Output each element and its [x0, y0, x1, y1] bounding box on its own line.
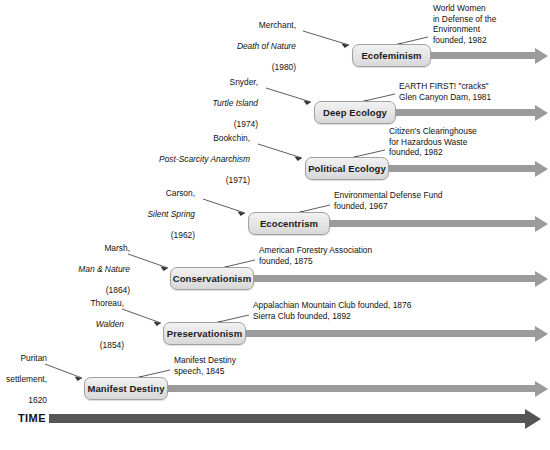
row-arrow-ecofeminism — [428, 52, 535, 59]
row-arrow-conservationism — [251, 275, 535, 282]
movement-box-ecofeminism[interactable]: Ecofeminism — [352, 44, 431, 67]
left-note-author: Carson, — [148, 188, 196, 199]
movement-box-political-ecology[interactable]: Political Ecology — [305, 157, 389, 180]
movement-box-preservationism[interactable]: Preservationism — [163, 322, 246, 345]
leader-line-left-2 — [266, 88, 311, 102]
row-arrow-ecocentrism — [327, 220, 535, 227]
left-note-author: Puritan — [6, 353, 47, 364]
leader-line-left-5 — [128, 254, 168, 268]
time-axis: TIME — [0, 405, 550, 435]
right-note-preservationism: Appalachian Mountain Club founded, 1876 … — [253, 300, 411, 321]
left-note-author: Snyder, — [213, 77, 258, 88]
movement-box-conservationism[interactable]: Conservationism — [170, 267, 254, 290]
leader-line-left-3 — [258, 144, 302, 158]
leader-line-left-7 — [45, 364, 82, 378]
left-note-preservationism: Thoreau, Walden (1854) — [90, 287, 124, 361]
left-note-work: Death of Nature — [237, 41, 296, 51]
left-note-year: (1854) — [90, 340, 124, 351]
left-note-work: Walden — [96, 319, 124, 329]
row-arrow-preservationism — [244, 330, 535, 337]
leader-line-left-6 — [122, 309, 161, 323]
row-arrow-manifest-destiny — [165, 385, 535, 392]
movement-box-manifest-destiny[interactable]: Manifest Destiny — [84, 377, 168, 400]
right-note-political-ecology: Citizen's Clearinghouse for Hazardous Wa… — [389, 126, 477, 158]
left-note-work: Post-Scarcity Anarchism — [159, 154, 250, 164]
left-note-author: Bookchin, — [159, 133, 250, 144]
time-axis-label: TIME — [18, 412, 46, 424]
left-note-author: Thoreau, — [90, 298, 124, 309]
right-note-ecofeminism: World Women in Defense of the Environmen… — [433, 3, 496, 45]
timeline-figure: Merchant, Death of Nature (1980) World W… — [0, 0, 550, 450]
left-note-work: Silent Spring — [148, 209, 196, 219]
right-note-deep-ecology: EARTH FIRST! "cracks" Glen Canyon Dam, 1… — [399, 81, 491, 102]
left-note-year: 1620 — [6, 395, 47, 406]
left-note-work: settlement, — [6, 374, 47, 385]
left-note-work: Turtle Island — [213, 98, 258, 108]
movement-box-deep-ecology[interactable]: Deep Ecology — [314, 101, 396, 124]
leader-line-left-4 — [203, 199, 245, 213]
right-note-ecocentrism: Environmental Defense Fund founded, 1967 — [334, 190, 442, 211]
leader-line-left-1 — [303, 31, 349, 45]
left-note-work: Man & Nature — [78, 264, 130, 274]
left-note-ecocentrism: Carson, Silent Spring (1962) — [148, 177, 196, 251]
row-arrow-political-ecology — [386, 165, 535, 172]
left-note-author: Marsh, — [78, 243, 130, 254]
row-arrow-deep-ecology — [393, 109, 535, 116]
right-note-manifest-destiny: Manifest Destiny speech, 1845 — [174, 355, 236, 376]
movement-box-ecocentrism[interactable]: Ecocentrism — [248, 212, 330, 235]
left-note-year: (1962) — [148, 230, 196, 241]
right-note-conservationism: American Forestry Association founded, 1… — [259, 245, 372, 266]
left-note-author: Merchant, — [237, 20, 296, 31]
time-axis-arrow — [49, 414, 525, 423]
